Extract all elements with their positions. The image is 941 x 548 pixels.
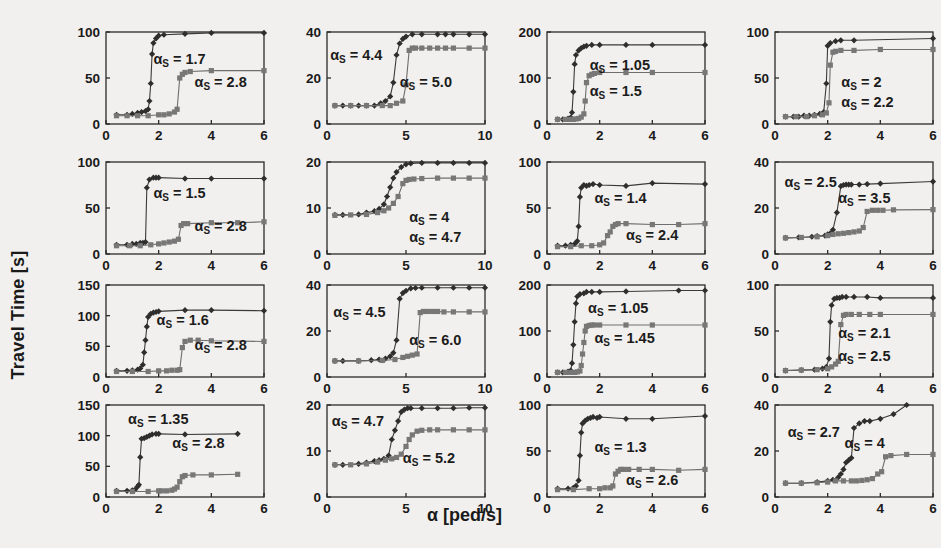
data-point-square (825, 479, 830, 484)
data-point-square (175, 485, 180, 490)
data-point-square (410, 432, 415, 437)
data-point-diamond (823, 80, 829, 86)
x-tick-label: 4 (877, 128, 885, 143)
data-point-diamond (834, 210, 840, 216)
data-point-diamond (597, 182, 603, 188)
series-line (335, 163, 485, 215)
y-tick-label: 100 (746, 278, 769, 293)
data-point-diamond (856, 181, 862, 187)
x-tick-label: 0 (771, 258, 779, 273)
data-point-square (177, 479, 182, 484)
data-point-diamond (649, 180, 655, 186)
data-point-diamond (702, 413, 708, 419)
data-point-diamond (124, 368, 130, 374)
data-point-square (482, 427, 487, 432)
data-point-square (851, 229, 856, 234)
data-point-square (177, 367, 182, 372)
data-point-square (146, 369, 151, 374)
data-point-square (435, 46, 440, 51)
y-tick-label: 50 (526, 444, 541, 459)
y-tick-label: 100 (77, 155, 100, 170)
data-point-diamond (146, 98, 152, 104)
data-point-square (799, 235, 804, 240)
data-point-diamond (623, 288, 629, 294)
data-point-square (209, 68, 214, 73)
data-point-square (844, 312, 849, 317)
data-point-square (857, 312, 862, 317)
data-point-square (388, 103, 393, 108)
x-tick-label: 0 (543, 258, 551, 273)
data-point-square (182, 70, 187, 75)
x-tick-label: 2 (155, 501, 163, 516)
data-point-diamond (577, 194, 583, 200)
annotation-alpha-s: αS = 1.5 (590, 84, 642, 101)
y-tick-label: 0 (761, 247, 769, 262)
data-point-square (130, 369, 135, 374)
data-point-square (407, 437, 412, 442)
data-point-square (167, 239, 172, 244)
data-point-diamond (573, 300, 579, 306)
annotation-alpha-s: αS = 1.45 (594, 331, 654, 348)
data-point-square (209, 472, 214, 477)
data-point-square (825, 233, 830, 238)
data-point-square (597, 322, 602, 327)
annotation-alpha-s: αS = 4.4 (330, 48, 382, 65)
data-point-diamond (419, 160, 425, 166)
data-point-square (849, 312, 854, 317)
data-point-square (167, 111, 172, 116)
data-point-square (849, 478, 854, 483)
data-point-diamond (702, 287, 708, 293)
x-tick-label: 0 (323, 258, 331, 273)
data-point-square (650, 322, 655, 327)
x-tick-label: 4 (877, 258, 885, 273)
data-point-diamond (569, 109, 575, 115)
data-point-diamond (623, 416, 629, 422)
data-point-square (601, 240, 606, 245)
data-point-diamond (182, 175, 188, 181)
data-point-diamond (827, 319, 833, 325)
y-tick-label: 150 (77, 278, 100, 293)
data-point-square (930, 312, 935, 317)
plot-axes: 051002040 (283, 275, 493, 403)
data-point-square (138, 243, 143, 248)
data-point-square (375, 210, 380, 215)
data-point-diamond (124, 488, 130, 494)
y-tick-label: 50 (754, 324, 769, 339)
x-tick-label: 0 (771, 128, 779, 143)
data-point-square (608, 229, 613, 234)
data-point-square (435, 427, 440, 432)
data-point-diamond (589, 42, 595, 48)
annotation-alpha-s: αS = 2.6 (626, 473, 678, 490)
x-tick-label: 2 (824, 258, 832, 273)
data-point-square (114, 243, 119, 248)
data-point-square (828, 63, 833, 68)
data-point-square (427, 46, 432, 51)
data-point-square (400, 98, 405, 103)
data-point-diamond (450, 405, 456, 411)
subplot-10: 051002040αS = 4.5αS = 6.0 (283, 275, 493, 403)
data-point-square (403, 444, 408, 449)
data-point-square (348, 103, 353, 108)
x-tick-label: 2 (596, 501, 604, 516)
data-point-diamond (387, 184, 393, 190)
data-point-diamond (562, 243, 568, 249)
data-point-square (451, 46, 456, 51)
y-tick-label: 20 (306, 71, 321, 86)
data-point-square (841, 478, 846, 483)
data-point-diamond (208, 175, 214, 181)
x-tick-label: 0 (543, 128, 551, 143)
data-point-diamond (565, 486, 571, 492)
x-tick-label: 6 (260, 258, 268, 273)
data-point-square (637, 467, 642, 472)
data-point-square (830, 232, 835, 237)
plot-axes: 0246050100 (731, 22, 941, 150)
data-point-square (135, 113, 140, 118)
data-point-square (421, 309, 426, 314)
data-point-square (579, 243, 584, 248)
data-point-diamond (144, 324, 150, 330)
x-tick-label: 5 (402, 501, 410, 516)
y-tick-label: 100 (518, 71, 541, 86)
x-tick-label: 0 (323, 128, 331, 143)
data-point-diamond (930, 295, 936, 301)
data-point-square (833, 478, 838, 483)
